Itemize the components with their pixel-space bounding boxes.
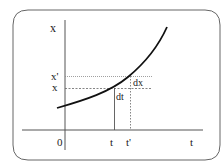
diagram-canvas: x x' x dx dt 0 t t' t [0, 0, 224, 168]
dx-label: dx [133, 77, 143, 88]
t-value-label: t [110, 136, 113, 148]
exponential-curve [57, 27, 167, 108]
x-axis-label: t [190, 136, 193, 148]
y-axis-label: x [50, 21, 56, 35]
x-value-label: x [52, 81, 58, 93]
origin-label: 0 [57, 136, 63, 148]
dt-label: dt [116, 91, 124, 102]
t-prime-label: t' [126, 136, 131, 148]
